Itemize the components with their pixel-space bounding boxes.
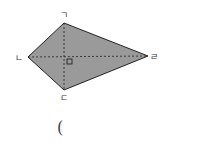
kite-diagram: ㄱ ㄴ ㄷ ㄹ (	[0, 0, 198, 144]
answer-open-paren: (	[57, 118, 63, 137]
vertex-label-right: ㄹ	[150, 52, 158, 62]
vertex-label-bottom: ㄷ	[60, 93, 68, 103]
vertex-label-left: ㄴ	[15, 53, 23, 63]
vertex-label-top: ㄱ	[60, 10, 68, 20]
